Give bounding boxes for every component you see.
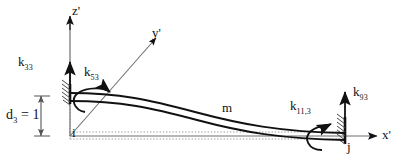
k93-label: k93 [353,85,368,102]
diagram-canvas [0,0,417,164]
k53-label: k53 [84,65,99,82]
member-label: m [222,101,232,114]
dimension-label-d3: d3 = 1 [6,108,39,124]
y-axis-label: y' [152,26,161,39]
x-axis-label: x' [382,128,391,141]
k113-subscript: 11,3 [297,107,312,116]
z-axis-label: z' [72,4,80,17]
k93-subscript: 93 [360,93,368,102]
k113-label: k11,3 [290,99,311,116]
k53-subscript: 53 [91,73,99,82]
fixed-support-i [62,80,70,105]
d3-equals: = 1 [18,107,40,122]
d3-base: d [6,107,13,122]
k113-moment-arrow [307,124,331,150]
node-label-j: j [347,140,351,153]
k33-label: k33 [18,55,33,72]
y-axis [70,38,156,136]
k33-subscript: 33 [25,63,33,72]
beam-stiffness-diagram: z' y' x' k33 k53 k93 k11,3 d3 = 1 m i j [0,0,417,164]
node-label-i: i [72,126,76,139]
